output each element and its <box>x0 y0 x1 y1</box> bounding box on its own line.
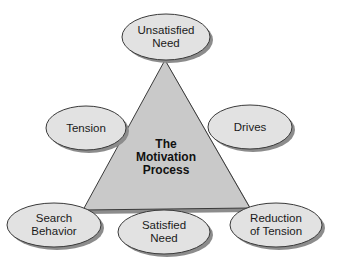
center-title-line-1: The <box>155 137 177 151</box>
node-label-line: Tension <box>66 122 106 134</box>
node-label-line: of Tension <box>250 225 302 237</box>
motivation-process-diagram: The Motivation Process Unsatisfied Need … <box>0 0 347 267</box>
node-label-line: Need <box>152 37 180 49</box>
center-title-line-2: Motivation <box>136 150 196 164</box>
node-unsatisfied-need: Unsatisfied Need <box>122 14 213 63</box>
node-label-line: Satisfied <box>142 219 186 231</box>
node-search-behavior: Search Behavior <box>7 203 104 250</box>
node-label-line: Drives <box>234 121 267 133</box>
node-reduction-of-tension: Reduction of Tension <box>230 203 325 250</box>
node-label-line: Unsatisfied <box>138 24 195 36</box>
node-label-line: Reduction <box>250 212 302 224</box>
node-label-line: Behavior <box>31 225 77 237</box>
node-drives: Drives <box>208 105 295 152</box>
node-tension: Tension <box>46 106 129 153</box>
node-label-line: Need <box>150 232 178 244</box>
center-title-line-3: Process <box>143 163 190 177</box>
node-label-line: Search <box>36 212 72 224</box>
node-satisfied-need: Satisfied Need <box>118 210 213 257</box>
